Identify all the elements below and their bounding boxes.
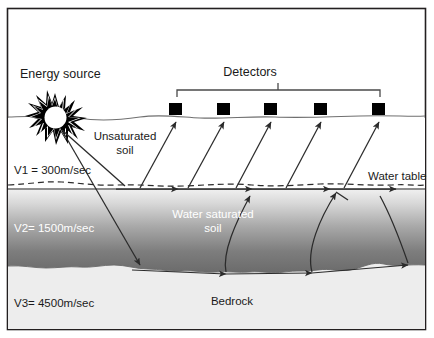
seismic-refraction-diagram: Energy source Detectors Unsaturated soil… (0, 0, 434, 338)
detector-4[interactable] (314, 103, 327, 115)
detector-1[interactable] (169, 103, 182, 115)
energy-source-label: Energy source (20, 67, 101, 81)
detector-2[interactable] (217, 103, 230, 115)
detector-3[interactable] (264, 103, 277, 115)
unsaturated-soil-label-line1: Unsaturated (94, 130, 157, 142)
figure-canvas: Energy source Detectors Unsaturated soil… (0, 0, 434, 338)
water-saturated-soil-label-line1: Water saturated (172, 208, 253, 220)
detectors-label: Detectors (223, 65, 277, 79)
unsaturated-soil-label-line2: soil (116, 144, 133, 156)
detector-5[interactable] (372, 103, 385, 115)
v2-velocity-label: V2= 1500m/sec (14, 222, 94, 234)
bedrock-label: Bedrock (211, 295, 253, 307)
water-table-label: Water table (368, 170, 426, 182)
v3-velocity-label: V3= 4500m/sec (14, 297, 94, 309)
water-saturated-soil-label-line2: soil (204, 222, 221, 234)
v1-velocity-label: V1 = 300m/sec (14, 164, 91, 176)
